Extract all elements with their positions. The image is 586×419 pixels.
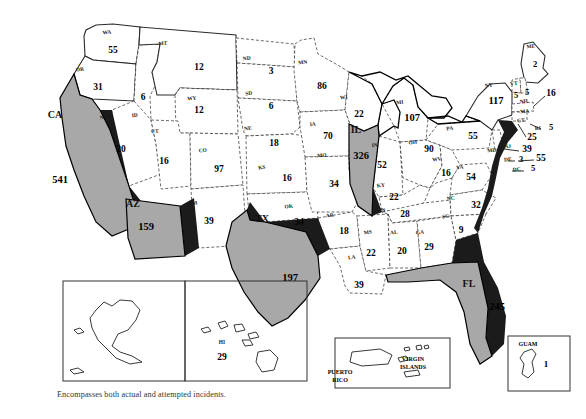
state-value-UT: 16: [159, 156, 169, 166]
state-value-MN: 86: [317, 81, 327, 91]
state-value-WY: 12: [194, 105, 204, 115]
state-shape-ND: [236, 38, 295, 67]
state-abbr-MS: MS: [363, 229, 372, 236]
state-value-KS: 16: [282, 173, 292, 183]
guam-box: [508, 336, 570, 391]
state-value-WV: 16: [441, 168, 451, 178]
state-value-PA: 55: [468, 131, 478, 141]
state-value-SD: 6: [269, 101, 274, 111]
state-abbr-UT: UT: [151, 128, 160, 135]
inset-abbr-HI: HI: [219, 339, 225, 345]
state-abbr-TX: TX: [255, 213, 270, 224]
state-shape-MN: [294, 38, 349, 112]
alaska-inset: [63, 281, 185, 381]
leader-line-CT: [518, 124, 526, 137]
state-abbr-GA: GA: [415, 229, 424, 236]
puerto-rico-shape: [350, 349, 392, 366]
state-abbr-KS: KS: [258, 164, 266, 171]
territory-label-virgin-islands-line1: VIRGIN: [402, 356, 425, 362]
aleutian-islands-shape: [70, 328, 84, 374]
state-value-TN: 28: [400, 209, 410, 219]
state-abbr-OH: OH: [408, 138, 418, 145]
state-value-CT: 25: [527, 132, 537, 142]
inset-value-HI: 29: [217, 352, 227, 362]
state-value-FL: 245: [489, 301, 505, 312]
us-incident-map: WAORCANVIDMTWYUTAZCONMNDSDNEKSOKTXMNIAMO…: [0, 0, 586, 419]
state-value-IL: 326: [353, 150, 369, 161]
territory-label-puerto-rico-line2: RICO: [332, 377, 348, 383]
state-abbr-AL: AL: [390, 229, 399, 236]
territory-label-virgin-islands-line2: ISLANDS: [400, 364, 427, 370]
state-abbr-VT: VT: [510, 80, 519, 87]
territory-value-guam: 1: [544, 359, 549, 369]
state-abbr-MN: MN: [298, 58, 308, 65]
state-value-MI: 107: [404, 112, 420, 123]
state-shape-CO: [190, 133, 243, 189]
state-value-MS: 22: [366, 248, 376, 258]
state-value-NY: 117: [488, 95, 503, 106]
state-abbr-WV: WV: [432, 155, 442, 162]
state-abbr-IA: IA: [309, 121, 316, 128]
state-abbr-ND: ND: [243, 55, 252, 62]
state-value-OH: 90: [424, 144, 434, 154]
state-shape-WY: [175, 88, 238, 134]
state-value-NM: 39: [204, 216, 214, 226]
state-abbr-MT: MT: [158, 39, 168, 46]
state-value-DC: 5: [531, 163, 535, 173]
state-abbr-NJ: NJ: [504, 143, 512, 150]
state-value-NE: 18: [269, 138, 279, 148]
puerto-rico-territory-box: [335, 338, 450, 388]
state-value-ID: 6: [141, 92, 146, 102]
hawaii-islands-shape: [201, 321, 278, 372]
state-abbr-MO: MO: [317, 151, 327, 158]
state-value-NV: 20: [116, 144, 126, 154]
state-abbr-OR: OR: [75, 66, 84, 73]
state-abbr-MD: MD: [487, 146, 497, 153]
state-value-NH: 5: [525, 87, 529, 97]
state-shape-WI: [345, 72, 382, 131]
guam-shape: [520, 349, 536, 378]
state-abbr-CO: CO: [198, 147, 207, 154]
state-value-NC: 32: [471, 200, 481, 210]
state-value-GA: 29: [424, 242, 434, 252]
state-value-AL: 20: [397, 246, 407, 256]
state-value-MO: 34: [329, 179, 339, 189]
state-shape-GA: [417, 216, 456, 268]
state-abbr-RI: RI: [534, 125, 541, 132]
state-abbr-KY: KY: [376, 182, 385, 189]
alaska-shape: [90, 300, 142, 364]
state-value-VA: 54: [466, 172, 476, 182]
state-value-WI: 22: [354, 109, 364, 119]
state-abbr-TN: TN: [378, 207, 386, 214]
state-abbr-DC: DC: [513, 166, 522, 173]
state-value-MT: 12: [194, 62, 204, 72]
guam-territory-box: [508, 336, 570, 391]
state-abbr-CT: CT: [517, 117, 526, 124]
state-abbr-AR: AR: [326, 212, 335, 219]
state-abbr-NC: NC: [447, 195, 456, 202]
state-abbr-WI: WI: [340, 94, 348, 101]
state-abbr-IL: IL: [351, 124, 362, 135]
state-abbr-NY: NY: [485, 82, 494, 89]
state-shape-FL-highlight: [386, 262, 492, 364]
state-abbr-IN: IN: [371, 142, 378, 149]
state-value-AR: 18: [339, 226, 349, 236]
state-abbr-MI: MI: [396, 99, 404, 106]
state-abbr-NH: NH: [519, 97, 529, 104]
state-value-SC: 9: [459, 225, 464, 235]
territory-label-guam: GUAM: [519, 341, 538, 347]
state-value-KY: 22: [389, 192, 399, 202]
state-abbr-SC: SC: [442, 213, 450, 220]
state-abbr-AZ: AZ: [126, 198, 140, 209]
state-value-VT: 5: [514, 90, 518, 100]
state-value-MD: 55: [536, 153, 546, 163]
state-abbr-OK: OK: [284, 202, 294, 209]
state-value-CO: 97: [214, 164, 224, 174]
state-abbr-NV: NV: [100, 114, 109, 121]
state-abbr-PA: PA: [446, 125, 454, 132]
state-value-ND: 3: [269, 66, 274, 76]
state-shape-OR: [74, 56, 136, 101]
state-value-NJ: 39: [522, 144, 532, 154]
state-abbr-LA: LA: [348, 254, 356, 261]
leader-line-MA: [534, 96, 545, 106]
